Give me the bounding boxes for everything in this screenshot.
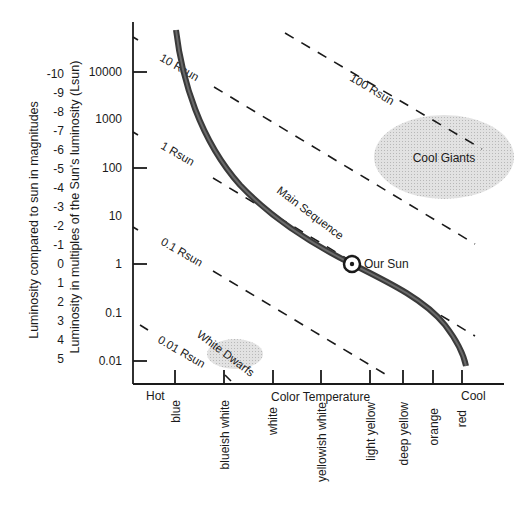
- svg-text:5: 5: [57, 352, 64, 366]
- svg-text:-3: -3: [53, 200, 64, 214]
- color-label-deep-yellow: deep yellow: [397, 402, 411, 466]
- hr-diagram: Cool Giants 100 Rsun 10 Rsun 1 Rsun 0.1 …: [0, 0, 525, 506]
- radius-label-0-1: 0.1 Rsun: [159, 235, 205, 268]
- svg-text:1000: 1000: [95, 112, 122, 126]
- color-label-white: white: [266, 407, 280, 436]
- color-label-blueish-white: blueish white: [218, 400, 232, 470]
- color-label-light-yellow: light yellow: [364, 402, 378, 461]
- svg-text:0: 0: [57, 257, 64, 271]
- our-sun-marker: [344, 256, 360, 272]
- svg-text:1: 1: [57, 276, 64, 290]
- y-axis-luminosity-title: Luminosity in multiples of the Sun's lum…: [68, 61, 82, 354]
- svg-text:-10: -10: [47, 67, 65, 81]
- svg-text:1: 1: [115, 257, 122, 271]
- x-axis-hot-label: Hot: [146, 389, 165, 403]
- svg-text:3: 3: [57, 314, 64, 328]
- svg-text:10: 10: [109, 209, 123, 223]
- radius-line-0-01-a: [140, 325, 148, 330]
- x-axis-title: Color Temperature: [271, 390, 370, 404]
- svg-text:10000: 10000: [89, 65, 123, 79]
- svg-text:100: 100: [102, 161, 122, 175]
- color-label-orange: orange: [427, 408, 441, 446]
- svg-text:-2: -2: [53, 219, 64, 233]
- color-label-yellowish-white: yellowish white: [315, 402, 329, 482]
- svg-text:-9: -9: [53, 86, 64, 100]
- svg-text:0.01: 0.01: [99, 354, 123, 368]
- main-sequence-label: Main Sequence: [275, 184, 346, 242]
- svg-text:-8: -8: [53, 105, 64, 119]
- radius-line-0-01: [225, 375, 231, 381]
- radius-label-100: 100 Rsun: [348, 71, 396, 107]
- luminosity-tick-labels: 10000 1000 100 10 1 0.1 0.01: [89, 65, 123, 368]
- magnitude-tick-labels: -10 -9 -8 -7 -6 -5 -4 -3 -2 -1 0 1 2 3 4…: [47, 67, 65, 366]
- main-sequence-curve: [176, 30, 466, 366]
- svg-text:-5: -5: [53, 162, 64, 176]
- y-axis-magnitude-title: Luminosity compared to sun in magnitudes: [27, 101, 41, 339]
- svg-text:0.1: 0.1: [105, 306, 122, 320]
- color-label-blue: blue: [169, 400, 183, 423]
- svg-text:-4: -4: [53, 181, 64, 195]
- svg-text:4: 4: [57, 333, 64, 347]
- radius-label-1: 1 Rsun: [159, 139, 197, 168]
- svg-text:-7: -7: [53, 124, 64, 138]
- svg-text:2: 2: [57, 295, 64, 309]
- color-label-red: red: [455, 410, 469, 427]
- cool-giants-label: Cool Giants: [413, 151, 476, 165]
- color-labels: blue blueish white white yellowish white…: [169, 400, 469, 482]
- svg-text:-1: -1: [53, 238, 64, 252]
- svg-text:-6: -6: [53, 143, 64, 157]
- our-sun-label: Our Sun: [364, 257, 409, 271]
- x-axis-cool-label: Cool: [461, 389, 486, 403]
